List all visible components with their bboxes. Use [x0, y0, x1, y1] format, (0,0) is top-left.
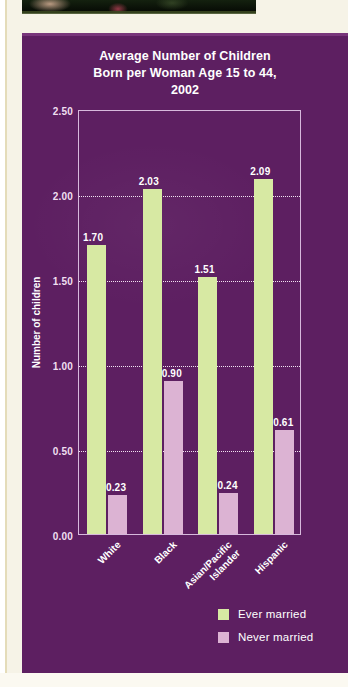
bar-ever-married: 2.03: [143, 189, 162, 534]
y-axis-tick-label: 2.50: [53, 106, 73, 117]
bar-never-married: 0.90: [164, 381, 183, 534]
bar-group: 1.510.24Asian/Pacific Islander: [198, 111, 238, 534]
bar-value-label: 0.24: [217, 480, 237, 491]
photo-banner-edge: [22, 11, 256, 14]
chart-title-line-1: Average Number of Children: [46, 48, 324, 65]
bar-value-label: 1.51: [194, 264, 214, 275]
bar-value-label: 2.09: [250, 166, 270, 177]
y-axis-title: Number of children: [30, 110, 44, 535]
bar-group: 2.090.61Hispanic: [254, 111, 294, 534]
paper-left-rule: [5, 0, 7, 687]
legend-label-ever-married: Ever married: [238, 608, 306, 620]
y-axis-tick-label: 0.50: [53, 446, 73, 457]
chart-title: Average Number of Children Born per Woma…: [46, 48, 324, 99]
x-axis-category-label: White: [96, 539, 124, 567]
x-axis-category-label: Hispanic: [253, 539, 291, 577]
chart-legend: Ever married Never married: [218, 608, 313, 654]
y-axis-tick-label: 2.00: [53, 191, 73, 202]
chart-title-line-2: Born per Woman Age 15 to 44,: [46, 65, 324, 82]
chart-title-line-3: 2002: [46, 82, 324, 99]
bar-ever-married: 2.09: [254, 179, 273, 534]
legend-label-never-married: Never married: [238, 631, 313, 643]
bar-value-label: 2.03: [139, 176, 159, 187]
bar-never-married: 0.61: [275, 430, 294, 534]
bar-group: 1.700.23White: [87, 111, 127, 534]
y-axis-title-text: Number of children: [32, 277, 43, 369]
bar-group: 2.030.90Black: [143, 111, 183, 534]
y-axis-tick-label: 1.00: [53, 361, 73, 372]
bar-value-label: 0.90: [162, 368, 182, 379]
y-axis-tick-label: 1.50: [53, 276, 73, 287]
bar-value-label: 0.23: [106, 482, 126, 493]
x-axis-category-label: Black: [152, 539, 179, 566]
paper-bottom-margin: [0, 673, 348, 687]
bar-ever-married: 1.51: [198, 277, 217, 534]
legend-item-never-married: Never married: [218, 631, 313, 643]
y-axis-tick-label: 0.00: [53, 531, 73, 542]
legend-swatch-never-married: [218, 632, 229, 643]
bar-never-married: 0.23: [108, 495, 127, 534]
panel-top-highlight: [22, 33, 348, 36]
bar-never-married: 0.24: [219, 493, 238, 534]
bar-ever-married: 1.70: [87, 245, 106, 534]
legend-swatch-ever-married: [218, 609, 229, 620]
bar-value-label: 0.61: [273, 417, 293, 428]
legend-item-ever-married: Ever married: [218, 608, 313, 620]
plot-area: 0.000.501.001.502.002.501.700.23White2.0…: [78, 110, 301, 535]
chart-panel: Average Number of Children Born per Woma…: [22, 33, 348, 673]
bar-value-label: 1.70: [83, 232, 103, 243]
